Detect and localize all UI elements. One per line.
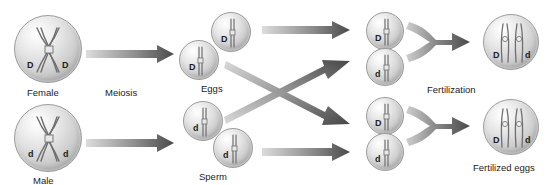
allele-label-right: d [525,136,531,145]
chromosome-pair-dd [15,105,83,173]
arrow-egg-cross-down [224,61,350,125]
allele-label: d [375,70,381,79]
caption-fertilization: Fertilization [427,85,476,95]
chromosome-single-D [180,41,220,81]
egg-cell-lower: D [179,40,219,80]
fertilized-egg-lower: D d [483,99,539,155]
chromosome-pair-Dd [484,15,540,71]
zygote-gamete-1-egg: D [366,12,404,50]
caption-meiosis: Meiosis [105,88,137,98]
allele-label-right: d [63,150,69,159]
allele-label: d [223,151,229,160]
male-cell: d d [14,104,82,172]
caption-male: Male [33,176,54,185]
chromosome-single-d [367,49,405,87]
allele-label: D [189,63,196,72]
allele-label-right: d [525,51,531,60]
arrow-sperm-to-zygote-bottom [262,143,350,161]
chromosome-single-D [367,98,405,136]
allele-label-left: d [28,150,34,159]
meiosis-fertilization-diagram: D D Female d d Male Meiosis D [0,0,559,185]
allele-label: d [375,155,381,164]
arrow-fertilization-upper [406,22,470,62]
allele-label: d [193,124,199,133]
chromosome-single-d [214,129,254,169]
caption-sperm: Sperm [199,172,227,182]
arrow-egg-to-zygote-top [262,21,350,39]
arrow-fertilization-lower [406,106,470,146]
chromosome-single-D [367,13,405,51]
allele-label-right: D [62,61,69,70]
zygote-gamete-2-sperm: d [366,133,404,171]
caption-fertilized-eggs: Fertilized eggs [473,163,535,173]
sperm-cell-lower: d [213,128,253,168]
arrow-sperm-cross-up [224,60,350,124]
chromosome-single-d [367,134,405,172]
chromosome-pair-DD [15,16,83,84]
allele-label: D [221,35,228,44]
arrow-meiosis-female [86,45,174,63]
arrow-meiosis-male [86,134,174,152]
allele-label-left: D [493,136,500,145]
allele-label: D [375,119,382,128]
zygote-gamete-1-sperm: d [366,48,404,86]
female-cell: D D [14,15,82,83]
allele-label: D [375,34,382,43]
caption-female: Female [27,88,59,98]
allele-label-left: D [27,61,34,70]
chromosome-pair-Dd [484,100,540,156]
fertilized-egg-upper: D d [483,14,539,70]
zygote-gamete-2-egg: D [366,97,404,135]
allele-label-left: D [493,51,500,60]
caption-eggs: Eggs [201,84,223,94]
